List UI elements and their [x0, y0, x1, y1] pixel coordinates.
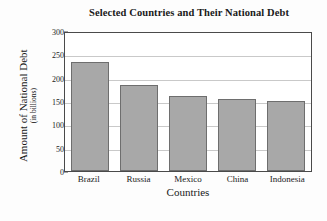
bar-mexico: [169, 96, 207, 171]
bar-series: [65, 33, 311, 171]
x-tick-label-indonesia: Indonesia: [263, 174, 311, 184]
bar-indonesia: [267, 101, 305, 171]
x-tick-label-brazil: Brazil: [65, 174, 113, 184]
y-tick-label: 50: [38, 144, 64, 153]
bar-russia: [120, 85, 158, 171]
x-axis-title: Countries: [64, 186, 312, 198]
y-tick-label: 300: [38, 28, 64, 37]
bar-china: [218, 99, 256, 171]
bar-brazil: [71, 62, 109, 171]
y-axis-ticks: 050100150200250300: [34, 32, 64, 172]
x-tick-label-mexico: Mexico: [164, 174, 212, 184]
y-tick-label: 200: [38, 74, 64, 83]
plot-area: [64, 32, 312, 172]
y-tick-label: 250: [38, 51, 64, 60]
x-tick-label-china: China: [214, 174, 262, 184]
chart-figure: Selected Countries and Their National De…: [0, 0, 327, 221]
chart-title: Selected Countries and Their National De…: [58, 7, 320, 18]
y-tick-label: 100: [38, 121, 64, 130]
x-axis-tick-labels: BrazilRussiaMexicoChinaIndonesia: [64, 174, 312, 184]
y-tick-label: 150: [38, 98, 64, 107]
y-axis-title-main: Amount of National Debt: [18, 26, 30, 186]
x-tick-label-russia: Russia: [114, 174, 162, 184]
y-tick-label: 0: [38, 168, 64, 177]
